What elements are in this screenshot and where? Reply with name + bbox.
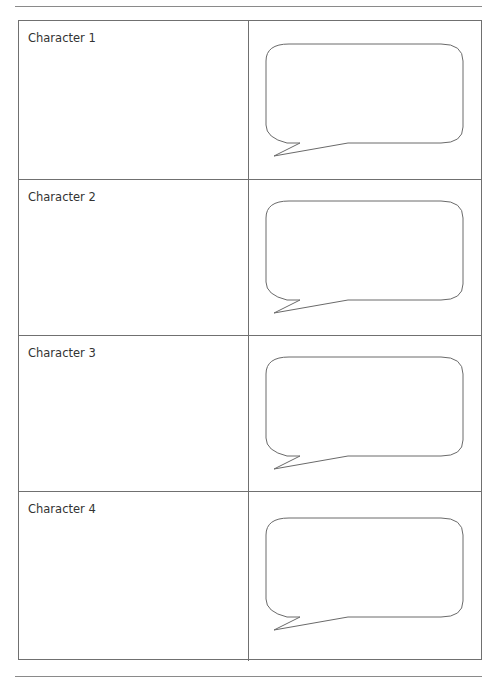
character-table: Character 1 Character 2 Character 3 [18,20,482,660]
character-label: Character 1 [28,31,96,45]
speech-cell[interactable] [249,21,481,179]
speech-bubble-icon [249,180,483,336]
footer-rule [15,676,482,677]
speech-bubble-icon [249,336,483,492]
table-row: Character 1 [19,21,481,180]
table-row: Character 2 [19,180,481,336]
speech-bubble-icon [249,492,483,661]
character-name-cell: Character 1 [19,21,249,179]
character-label: Character 2 [28,190,96,204]
speech-cell[interactable] [249,180,481,335]
table-row: Character 3 [19,336,481,492]
character-name-cell: Character 2 [19,180,249,335]
character-name-cell: Character 4 [19,492,249,661]
speech-cell[interactable] [249,492,481,661]
header-rule [15,6,482,7]
character-label: Character 3 [28,346,96,360]
table-row: Character 4 [19,492,481,661]
character-name-cell: Character 3 [19,336,249,491]
speech-cell[interactable] [249,336,481,491]
speech-bubble-icon [249,21,483,180]
character-label: Character 4 [28,502,96,516]
